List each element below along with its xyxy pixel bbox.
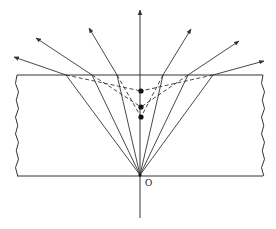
light-rays bbox=[14, 28, 264, 175]
diagram-canvas bbox=[0, 0, 276, 229]
refracted-ray-arrow bbox=[213, 61, 264, 75]
refracted-ray-arrow bbox=[89, 28, 117, 75]
slab-left-break-edge bbox=[16, 75, 19, 176]
refracted-ray-arrow bbox=[14, 57, 66, 75]
incident-ray bbox=[140, 75, 213, 175]
dashed-extension bbox=[141, 75, 163, 117]
image-point-dot bbox=[138, 114, 143, 119]
refraction-diagram: O bbox=[0, 0, 276, 229]
origin-label: O bbox=[145, 177, 152, 188]
source-point-o bbox=[138, 173, 141, 176]
dashed-extension bbox=[117, 75, 141, 117]
refracted-ray-arrow bbox=[36, 38, 92, 75]
slab-right-break-edge bbox=[262, 75, 265, 176]
image-point-dot bbox=[138, 104, 143, 109]
incident-ray bbox=[92, 75, 140, 175]
image-point-dot bbox=[138, 88, 143, 93]
dashed-extension bbox=[141, 75, 188, 107]
refracted-ray-arrow bbox=[163, 29, 191, 75]
